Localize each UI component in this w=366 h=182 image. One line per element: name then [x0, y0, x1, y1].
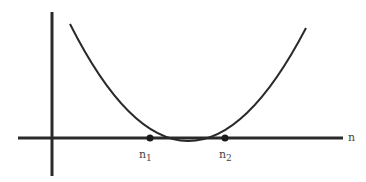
root-label-2: n2	[219, 148, 232, 163]
root-label-1: n1	[139, 148, 152, 163]
parabola-diagram: n n1 n2	[0, 0, 366, 182]
root-point-2	[222, 135, 229, 142]
x-axis-label: n	[348, 131, 355, 144]
parabola-curve	[70, 24, 306, 141]
root-point-1	[147, 135, 154, 142]
